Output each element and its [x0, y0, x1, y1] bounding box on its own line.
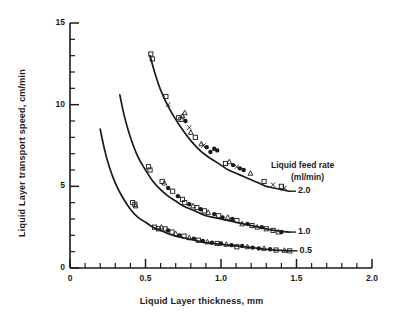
- data-point-square: [193, 135, 197, 139]
- data-point-triangle: [225, 215, 230, 220]
- series-curve-1.0: [120, 95, 289, 232]
- data-point-filled-circle: [260, 225, 264, 229]
- data-point-filled-circle: [229, 243, 233, 247]
- chart-figure: Liquid Layer thickness, mm Liquid Layer …: [0, 0, 403, 318]
- data-point-filled-circle: [187, 202, 191, 206]
- curve-label-1.0: 1.0: [298, 226, 311, 236]
- data-point-filled-circle: [183, 119, 187, 123]
- data-point-filled-circle: [177, 233, 181, 237]
- data-point-filled-circle: [204, 145, 208, 149]
- series-curve-0.5: [100, 129, 290, 251]
- y-tick-label: 5: [46, 180, 65, 190]
- x-tick-label: 1.5: [288, 273, 306, 283]
- data-point-square: [171, 189, 175, 193]
- data-point-triangle: [248, 171, 253, 176]
- x-tick-label: 0.5: [137, 273, 155, 283]
- data-point-filled-circle: [201, 239, 205, 243]
- data-point-filled-circle: [219, 241, 223, 245]
- data-point-triangle: [188, 130, 193, 135]
- data-point-filled-circle: [241, 168, 245, 172]
- data-point-square: [202, 209, 206, 213]
- curve-label-0.5: 0.5: [299, 245, 312, 255]
- y-tick-label: 0: [46, 262, 65, 272]
- y-tick-label: 10: [46, 99, 65, 109]
- x-tick-label: 0: [61, 273, 79, 283]
- axes-group: [70, 23, 372, 268]
- data-point-filled-circle: [176, 194, 180, 198]
- data-point-filled-circle: [166, 186, 170, 190]
- x-axis-title: Liquid Layer thickness, mm: [0, 296, 403, 306]
- data-point-cross: [271, 183, 275, 187]
- y-tick-label: 15: [46, 17, 65, 27]
- curve-label-2.0: 2.0: [298, 185, 311, 195]
- legend-title-line-2: (ml/min): [291, 172, 324, 182]
- data-point-triangle: [227, 159, 232, 164]
- data-point-square: [262, 179, 266, 183]
- data-point-filled-circle: [238, 166, 242, 170]
- data-point-filled-circle: [279, 230, 283, 234]
- data-point-filled-circle: [230, 217, 234, 221]
- data-point-filled-circle: [240, 244, 244, 248]
- x-tick-label: 2.0: [363, 273, 381, 283]
- x-tick-label: 1.0: [212, 273, 230, 283]
- data-point-triangle: [182, 110, 187, 115]
- data-point-filled-circle: [245, 222, 249, 226]
- data-point-filled-circle: [210, 240, 214, 244]
- data-point-filled-circle: [215, 148, 219, 152]
- legend-title-line-1: Liquid feed rate: [271, 160, 334, 170]
- data-point-filled-circle: [251, 245, 255, 249]
- data-point-filled-circle: [268, 247, 272, 251]
- data-point-filled-circle: [257, 246, 261, 250]
- data-point-filled-circle: [208, 150, 212, 154]
- markers-group: [131, 52, 292, 253]
- data-point-filled-circle: [212, 212, 216, 216]
- data-point-filled-circle: [192, 236, 196, 240]
- y-axis-title: Liquid Layer transport speed, cm/min: [17, 53, 27, 253]
- series-curve-2.0: [150, 56, 289, 192]
- data-point-filled-circle: [220, 215, 224, 219]
- curves-group: [100, 56, 297, 251]
- data-point-square: [170, 230, 174, 234]
- data-point-square: [217, 214, 221, 218]
